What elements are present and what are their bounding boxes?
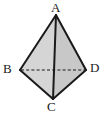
vertex-label-a: A xyxy=(51,1,60,14)
face-lower-right xyxy=(53,15,86,99)
figure-canvas: A B C D xyxy=(0,0,105,118)
vertex-label-c: C xyxy=(47,100,56,113)
vertex-label-d: D xyxy=(90,61,99,74)
vertex-label-b: B xyxy=(3,62,12,75)
